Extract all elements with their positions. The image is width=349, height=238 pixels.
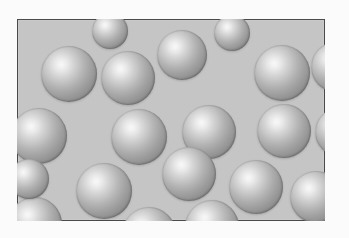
- sphere: [101, 51, 155, 105]
- sphere: [229, 160, 283, 214]
- sphere: [290, 171, 325, 221]
- sphere: [214, 19, 250, 51]
- sphere: [92, 19, 128, 49]
- sphere: [157, 30, 207, 80]
- sphere: [76, 163, 132, 219]
- sphere: [17, 197, 62, 221]
- sphere: [311, 42, 325, 92]
- sphere: [41, 46, 97, 102]
- sphere: [315, 108, 325, 156]
- sphere: [17, 159, 49, 199]
- sphere: [122, 207, 176, 221]
- sphere-packing-panel: [17, 19, 325, 221]
- sphere: [111, 109, 167, 165]
- sphere: [254, 45, 310, 101]
- sphere: [257, 104, 311, 158]
- sphere: [185, 200, 239, 221]
- sphere: [17, 108, 67, 164]
- sphere: [162, 147, 216, 201]
- figure-canvas: [0, 0, 349, 238]
